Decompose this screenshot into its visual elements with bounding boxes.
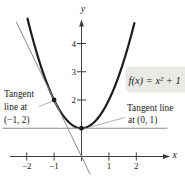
figure-container: −2−112234 y x f(x) = x² + 1 Tangent line… <box>0 0 185 178</box>
tangent-left-label-line2: line at <box>4 102 28 112</box>
y-tick-label: 2 <box>72 95 77 105</box>
tangent-right-label-line1: Tangent line <box>127 103 173 113</box>
x-tick-label: 2 <box>134 161 139 171</box>
tangent-right-label-line2: at (0, 1) <box>128 115 157 126</box>
y-tick-label: 4 <box>72 39 77 49</box>
tangency-point-dot <box>79 126 84 131</box>
formula-label: f(x) = x² + 1 <box>129 75 181 87</box>
x-axis-arrowhead <box>163 154 170 159</box>
tangent-left-label-line1: Tangent <box>4 89 34 99</box>
x-axis-label: x <box>172 149 178 160</box>
tangent-left-label-line3: (−1, 2) <box>4 115 30 126</box>
figure-svg: −2−112234 y x f(x) = x² + 1 Tangent line… <box>0 0 185 178</box>
y-axis-label: y <box>80 3 86 14</box>
x-tick-label: 1 <box>107 161 112 171</box>
x-tick-label: −1 <box>49 161 59 171</box>
function-curve <box>28 19 135 129</box>
x-tick-label: −2 <box>22 161 32 171</box>
pointer-line-tangent-left <box>39 102 52 107</box>
y-axis-arrowhead <box>79 20 84 27</box>
tangency-point-dot <box>52 98 57 103</box>
y-tick-label: 3 <box>72 67 77 77</box>
